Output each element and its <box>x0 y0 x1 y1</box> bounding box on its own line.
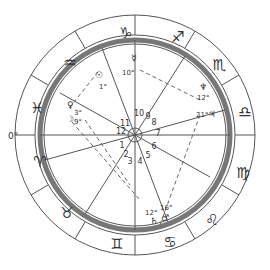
libra-icon: ♎ <box>238 103 251 121</box>
svg-text:9°: 9° <box>74 118 82 126</box>
house-numbers: 1 2 3 4 5 6 7 8 9 10 11 12 <box>116 109 161 166</box>
virgo-icon: ♍ <box>236 164 249 182</box>
svg-text:10°: 10° <box>122 69 134 77</box>
svg-text:6: 6 <box>151 142 156 151</box>
mars-icon: ♂ <box>161 213 169 223</box>
svg-text:7: 7 <box>155 129 160 138</box>
aquarius-icon: ♒ <box>63 54 76 72</box>
svg-text:21°: 21° <box>196 111 208 119</box>
scorpio-icon: ♏ <box>212 56 226 74</box>
ascendant-label: 0° <box>8 131 18 141</box>
jupiter-icon: ♃ <box>208 109 216 119</box>
svg-text:3: 3 <box>127 157 132 166</box>
saturn-icon: ♄ <box>150 216 158 226</box>
aries-icon: ♈ <box>33 153 46 171</box>
mercury-icon: ☿ <box>131 53 137 63</box>
capricorn-icon: ♑ <box>119 24 132 42</box>
venus-icon: ♀ <box>67 100 74 110</box>
astro-chart: ♈ ♉ ♊ ♋ ♌ ♍ ♎ ♏ ♐ ♑ ♒ ♓ 0° 1 2 3 4 5 6 7… <box>0 0 270 270</box>
leo-icon: ♌ <box>205 211 218 229</box>
cancer-icon: ♋ <box>163 233 176 251</box>
sagittarius-icon: ♐ <box>171 28 184 46</box>
svg-text:16°: 16° <box>160 204 172 212</box>
svg-text:9: 9 <box>145 112 150 121</box>
planets: ☉ 1° ♀ 3° ☽ 9° ☿ 10° ♆ 12° 21° ♃ 12° ♄ 1… <box>66 53 216 226</box>
svg-text:4: 4 <box>137 157 142 166</box>
svg-text:10: 10 <box>134 109 144 118</box>
svg-text:1: 1 <box>119 141 124 150</box>
svg-text:3°: 3° <box>74 109 82 117</box>
pisces-icon: ♓ <box>30 99 43 117</box>
svg-text:8: 8 <box>151 118 156 127</box>
svg-text:12: 12 <box>116 127 126 136</box>
taurus-icon: ♉ <box>60 204 73 222</box>
moon-icon: ☽ <box>66 114 74 124</box>
gemini-icon: ♊ <box>110 235 123 253</box>
sun-icon: ☉ <box>95 70 103 80</box>
svg-text:1°: 1° <box>99 83 107 91</box>
svg-text:5: 5 <box>145 151 150 160</box>
neptune-icon: ♆ <box>199 82 207 92</box>
svg-text:12°: 12° <box>197 94 209 102</box>
